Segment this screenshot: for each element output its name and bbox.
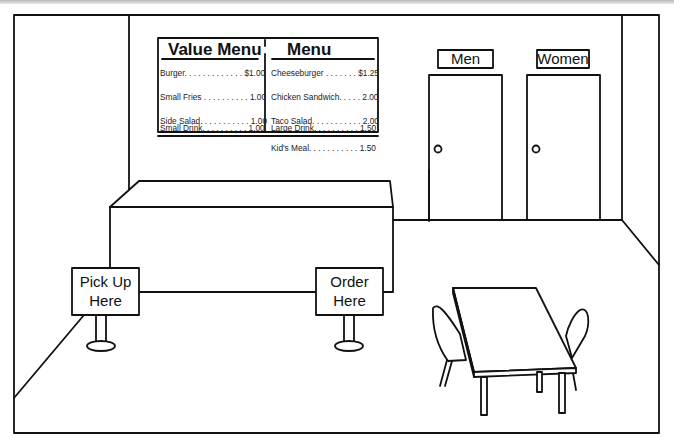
door-knob-icon[interactable] — [533, 146, 540, 153]
value-menu-item: Burger. . . . . . . . . . . . . $1.00 — [160, 68, 266, 78]
menu-item: Large Drink. . . . . . . . . . 1.50 — [271, 123, 377, 133]
pickup-sign-line1: Pick Up — [80, 273, 132, 290]
men-sign-label: Men — [451, 50, 480, 67]
value-menu-item: Small Fries . . . . . . . . . . 1.00 — [160, 92, 266, 102]
dining-table — [433, 288, 588, 415]
menu-title: Menu — [287, 40, 331, 59]
women-door[interactable] — [527, 50, 600, 220]
value-menu-item: Small Drink. . . . . . . . . . 1.00 — [160, 123, 265, 133]
restaurant-scene: Value Menu Menu Burger. . . . . . . . . … — [0, 0, 674, 439]
order-sign-line1: Order — [330, 273, 368, 290]
men-door[interactable] — [429, 50, 502, 220]
menu-item: Chicken Sandwich. . . . . 2.00 — [271, 92, 379, 102]
door-knob-icon[interactable] — [435, 146, 442, 153]
value-menu-title: Value Menu — [168, 40, 262, 59]
women-sign-label: Women — [537, 50, 588, 67]
menu-item: Kid's Meal. . . . . . . . . . . 1.50 — [271, 143, 376, 153]
pickup-sign-line2: Here — [89, 292, 122, 309]
menu-item: Cheeseburger . . . . . . . $1.25 — [271, 68, 379, 78]
order-sign-line2: Here — [333, 292, 366, 309]
